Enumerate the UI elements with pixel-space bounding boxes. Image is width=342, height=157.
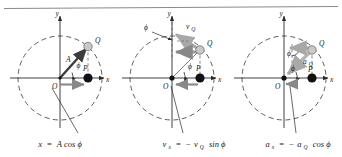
caption: a x = − a Q cos ϕ <box>265 139 331 151</box>
top-rule <box>4 7 338 9</box>
point-p <box>83 73 92 82</box>
panel-displacement: x y A ϕ Q P O x = A cos ϕ <box>10 9 110 149</box>
angle-label: ϕ <box>77 61 81 70</box>
point-q <box>84 42 92 50</box>
x-axis-label: x <box>329 75 334 84</box>
x-axis-label: x <box>105 75 110 84</box>
acceleration-label-base: a <box>303 57 307 66</box>
point-p <box>307 73 316 82</box>
point-p-label: P <box>307 65 313 74</box>
caption-sign: − <box>289 139 294 149</box>
angle-arc-upper <box>292 52 299 56</box>
angle-label: ϕ <box>291 64 295 73</box>
angle-leader <box>152 32 172 40</box>
origin-dot <box>169 75 174 80</box>
angle-label-upper: ϕ <box>287 49 291 58</box>
angle-arc <box>184 72 185 82</box>
velocity-label-sub: Q <box>191 26 195 32</box>
caption-leader <box>290 86 296 133</box>
caption-rhs: A cos ϕ <box>56 139 83 149</box>
caption-lhs-base: a <box>265 139 269 149</box>
angle-label-upper: ϕ <box>144 23 148 32</box>
caption-lhs: x <box>37 139 42 149</box>
angle-arc <box>296 72 297 82</box>
origin-dot <box>281 75 286 80</box>
point-q-label: Q <box>207 39 213 48</box>
caption: x = A cos ϕ <box>37 139 82 149</box>
reference-circle-figure: x y A ϕ Q P O x = A cos ϕ x <box>0 0 342 157</box>
velocity-label: v Q <box>186 22 195 32</box>
panel-acceleration: x y ϕ a Q ϕ Q P O a <box>234 9 334 151</box>
origin-label: O <box>275 82 281 91</box>
y-axis-label: y <box>55 9 60 18</box>
caption-sign: − <box>186 139 191 149</box>
velocity-label-base: v <box>186 22 190 31</box>
panel-velocity: x y ϕ v Q ϕ Q P O <box>122 9 226 151</box>
angle-arc <box>72 73 73 82</box>
caption-equals: = <box>176 139 181 149</box>
point-q <box>308 46 316 54</box>
caption-rhs-sub: Q <box>200 144 204 150</box>
point-q-label: Q <box>319 39 325 48</box>
caption-fn: cos ϕ <box>313 139 331 149</box>
caption-lhs-base: v <box>163 139 167 149</box>
caption: v x = − v Q sin ϕ <box>163 139 226 151</box>
point-p <box>195 73 204 82</box>
y-axis-label: y <box>279 9 284 18</box>
x-axis-label: x <box>217 75 222 84</box>
caption-equals: = <box>279 139 284 149</box>
caption-leader <box>171 86 183 133</box>
caption-lhs-sub: x <box>271 144 275 150</box>
amplitude-label: A <box>65 55 71 64</box>
caption-lhs-sub: x <box>167 144 171 150</box>
origin-label: O <box>163 82 169 91</box>
origin-dot <box>58 76 61 79</box>
caption-rhs-base: a <box>297 139 301 149</box>
caption-rhs-base: v <box>194 139 198 149</box>
caption-fn: sin ϕ <box>209 139 226 149</box>
point-q <box>196 46 204 54</box>
point-q-label: Q <box>95 36 101 45</box>
caption-equals: = <box>47 139 52 149</box>
point-p-label: P <box>82 64 88 73</box>
point-p-label: P <box>195 64 201 73</box>
angle-label: ϕ <box>188 62 192 71</box>
y-axis-label: y <box>167 9 172 18</box>
caption-rhs-sub: Q <box>304 144 308 150</box>
caption-leader <box>52 88 78 133</box>
